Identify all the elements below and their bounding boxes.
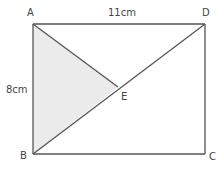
shaded-triangle-abe [33,24,118,154]
point-label-c: C [209,151,216,162]
point-label-b: B [20,150,27,161]
left-side-measurement: 8cm [6,84,28,95]
point-label-d: D [202,7,210,18]
geometry-diagram: A D B C E 11cm 8cm [0,0,220,170]
point-label-e: E [121,91,127,102]
point-label-a: A [27,7,34,18]
top-side-measurement: 11cm [108,7,136,18]
